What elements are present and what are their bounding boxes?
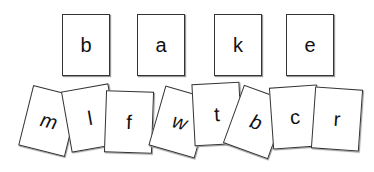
- target-card: e: [286, 14, 334, 76]
- letter-card[interactable]: r: [311, 86, 363, 151]
- card-letter: a: [155, 34, 166, 57]
- card-letter: e: [304, 34, 315, 57]
- letter-card[interactable]: f: [104, 90, 154, 154]
- target-card: b: [62, 14, 110, 76]
- card-letter: f: [126, 110, 132, 133]
- card-letter: w: [170, 109, 190, 135]
- target-card: k: [214, 14, 262, 76]
- card-letter: r: [333, 107, 341, 130]
- target-card: a: [137, 14, 185, 76]
- card-letter: t: [214, 102, 221, 125]
- card-letter: l: [86, 106, 94, 129]
- card-letter: b: [80, 34, 91, 57]
- card-letter: c: [289, 105, 301, 129]
- card-letter: k: [233, 34, 243, 57]
- card-letter: b: [247, 109, 265, 134]
- card-letter: m: [38, 108, 60, 134]
